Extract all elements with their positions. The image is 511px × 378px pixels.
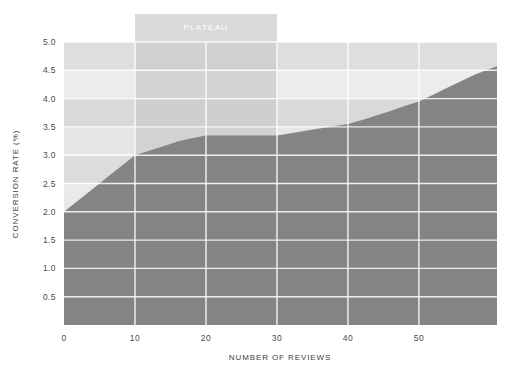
y-tick-label: 1.5 xyxy=(43,235,56,245)
x-tick-label: 0 xyxy=(61,333,66,343)
y-tick-label: 2.5 xyxy=(43,179,56,189)
plateau-annotation-label: PLATEAU xyxy=(183,23,228,32)
x-tick-label: 50 xyxy=(414,333,424,343)
x-tick-label: 10 xyxy=(130,333,140,343)
x-tick-label: 20 xyxy=(201,333,211,343)
y-tick-label: 3.5 xyxy=(43,122,56,132)
conversion-rate-area-chart: 0.51.01.52.02.53.03.54.04.55.0 010203040… xyxy=(0,0,511,378)
y-tick-label: 2.0 xyxy=(43,207,56,217)
y-tick-label: 0.5 xyxy=(43,292,56,302)
x-axis-title: NUMBER OF REVIEWS xyxy=(229,353,331,362)
y-tick-label: 4.0 xyxy=(43,94,56,104)
x-tick-label: 40 xyxy=(343,333,353,343)
y-tick-label: 1.0 xyxy=(43,263,56,273)
chart-container: 0.51.01.52.02.53.03.54.04.55.0 010203040… xyxy=(0,0,511,378)
x-tick-label: 30 xyxy=(272,333,282,343)
y-tick-label: 5.0 xyxy=(43,37,56,47)
y-tick-label: 4.5 xyxy=(43,65,56,75)
y-axis-title: CONVERSION RATE (%) xyxy=(11,130,20,239)
y-tick-label: 3.0 xyxy=(43,150,56,160)
